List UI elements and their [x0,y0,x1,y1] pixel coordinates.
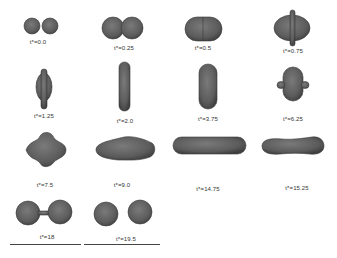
side-lobe-left [277,82,285,89]
frame-label-11: t*=15.25 [285,185,308,191]
cylinder-droplet [119,62,130,111]
droplet-frame-7 [277,67,309,101]
diamond-droplet [26,132,66,166]
droplet-frame-4 [36,69,52,109]
long-cylinder-droplet [173,137,246,154]
frame-label-2: t*=0.5 [195,45,211,51]
droplet-right [48,200,72,224]
droplet-sequence-figure: t*=0.0 t*=0.25 t*=0.5 t*=0.75 t*=1.25 t*… [0,0,337,258]
frame-label-9: t*=9.0 [114,182,130,188]
droplet-shapes-canvas [0,0,337,258]
droplet-frame-6 [199,64,217,109]
droplet-right [121,17,143,39]
droplet-rim [41,69,47,109]
droplet-frame-5 [119,62,130,111]
droplet-frame-10 [173,137,246,154]
cylinder-droplet [199,64,217,109]
frame-label-8: t*=7.5 [37,182,53,188]
frame-label-7: t*=6.25 [283,116,303,122]
droplet-frame-13 [94,200,152,226]
frame-label-5: t*=2.0 [117,118,133,124]
droplet-frame-9 [96,137,155,160]
frame-label-1: t*=0.25 [114,45,134,51]
frame-label-13: t*=19.5 [116,236,136,242]
frame-label-6: t*=3.75 [198,116,218,122]
dumbbell-droplet [262,137,324,154]
droplet-frame-11 [262,137,324,154]
droplet-right [128,200,152,224]
frame-label-3: t*=0.75 [283,48,303,54]
underline-rule-right [84,244,160,245]
droplet-frame-3 [274,10,310,46]
spindle-droplet [96,137,155,160]
squat-droplet [283,67,303,101]
frame-label-12: t*=18 [40,234,55,240]
droplet-left [16,201,40,225]
droplet-left [94,202,118,226]
underline-rule-left [10,244,81,245]
droplet-frame-8 [26,132,66,166]
droplet-frame-12 [16,200,72,225]
droplet-right [42,18,58,34]
frame-label-10: t*=14.75 [196,186,219,192]
droplet-left [102,17,124,39]
merged-droplet [185,17,222,41]
frame-label-0: t*=0.0 [30,39,46,45]
side-lobe-right [301,82,309,89]
droplet-left [24,18,40,34]
droplet-frame-2 [185,17,222,41]
droplet-frame-0 [24,18,58,34]
droplet-frame-1 [102,17,143,39]
droplet-rim [290,10,295,46]
frame-label-4: t*=1.25 [34,113,54,119]
